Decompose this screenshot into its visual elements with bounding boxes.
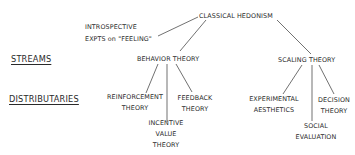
- node-introspective-line2: EXPTS on "FEELING": [85, 34, 152, 45]
- edge-scaling-experimental: [283, 65, 302, 94]
- node-incentive-value-theory: INCENTIVE VALUE THEORY: [146, 118, 186, 151]
- node-scaling-theory: SCALING THEORY: [278, 55, 335, 66]
- row-label-distributaries: DISTRIBUTARIES: [9, 94, 79, 105]
- node-classical-hedonism: CLASSICAL HEDONISM: [199, 11, 273, 22]
- edge-behavior-feedback: [176, 64, 192, 92]
- node-introspective-line1: INTROSPECTIVE: [85, 22, 137, 33]
- hedonism-tree-diagram: CLASSICAL HEDONISM INTROSPECTIVE EXPTS o…: [0, 0, 355, 155]
- edge-root-scaling: [277, 20, 311, 54]
- edge-scaling-decision: [319, 65, 334, 94]
- row-label-streams: STREAMS: [11, 54, 51, 65]
- node-reinforcement-theory: REINFORCEMENT THEORY: [103, 92, 167, 114]
- node-social-evaluation: SOCIAL EVALUATION: [294, 121, 338, 143]
- edge-behavior-reinforcement: [146, 64, 158, 93]
- edge-root-behavior: [180, 20, 206, 51]
- node-experimental-aesthetics: EXPERIMENTAL AESTHETICS: [246, 94, 302, 116]
- node-decision-theory: DECISION THEORY: [316, 95, 352, 117]
- node-behavior-theory: BEHAVIOR THEORY: [137, 54, 199, 65]
- node-feedback-theory: FEEDBACK THEORY: [174, 93, 216, 115]
- edge-root-introspective: [158, 17, 198, 36]
